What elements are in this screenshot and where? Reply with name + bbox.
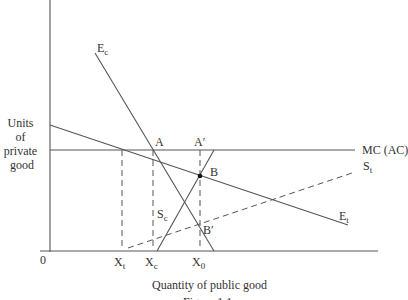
st-label: St [363,159,373,175]
mc-label: MC (AC) [362,143,408,157]
y-axis-label: Units of private good [4,116,40,172]
sc-label: Sc [157,207,168,223]
point-a-prime-label: A′ [194,135,206,149]
x0-tick-label: X0 [192,255,206,271]
figure-caption: Figure 1.1 [183,295,232,300]
point-b-label: B [210,165,218,179]
x-axis-label: Quantity of public good [152,278,267,292]
point-b-dot [198,174,203,179]
ec-line [95,53,214,251]
origin-label: 0 [40,253,46,267]
et-label: Et [339,209,349,225]
xt-tick-label: Xt [114,255,126,271]
point-a-label: A [155,135,164,149]
public-good-diagram: Ec Et Sc St MC (AC) A A′ B B′ Units of p… [0,0,408,300]
xc-tick-label: Xc [145,255,158,271]
ec-label: Ec [97,41,108,57]
point-b-prime-label: B′ [203,223,214,237]
